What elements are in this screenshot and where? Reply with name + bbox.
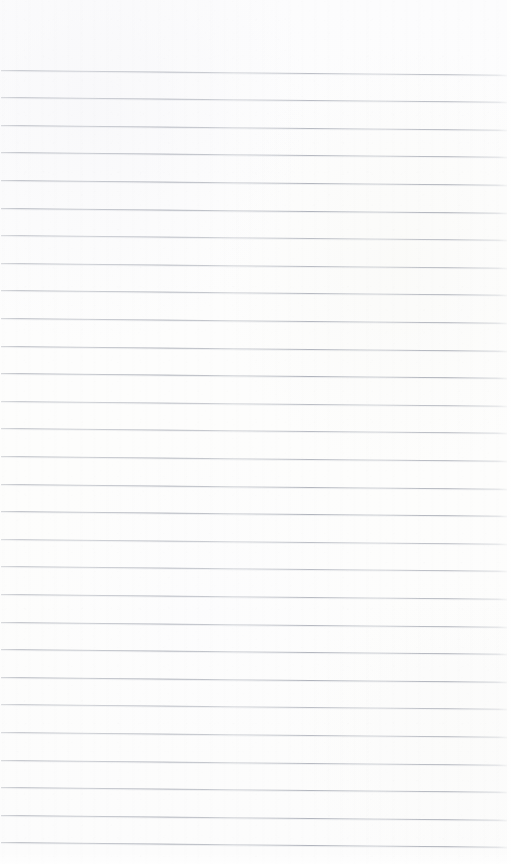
paper-background [0,0,514,864]
scanned-page [0,0,514,864]
